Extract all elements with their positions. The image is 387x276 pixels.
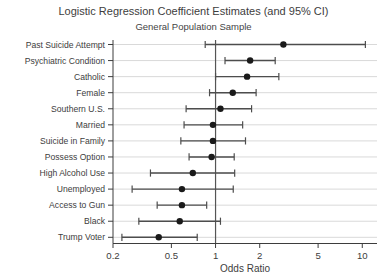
- estimate-point: [210, 138, 216, 144]
- forest-plot-canvas: Past Suicide AttemptPsychiatric Conditio…: [0, 0, 387, 276]
- estimate-point: [210, 122, 216, 128]
- estimate-point: [156, 234, 162, 240]
- y-axis-label: Unemployed: [57, 184, 105, 194]
- estimate-point: [177, 218, 183, 224]
- estimate-point: [247, 57, 253, 63]
- x-axis-tick-label: 5: [315, 250, 320, 261]
- x-axis-tick-label: 0.2: [106, 250, 119, 261]
- y-axis-label: High Alcohol Use: [40, 168, 106, 178]
- y-axis-label: Suicide in Family: [40, 136, 106, 146]
- chart-title: Logistic Regression Coefficient Estimate…: [0, 5, 387, 18]
- y-axis-label: Psychiatric Condition: [25, 56, 105, 66]
- x-axis-tick-label: 1: [213, 250, 218, 261]
- x-axis-tick-label: 0.5: [165, 250, 178, 261]
- estimate-point: [190, 170, 196, 176]
- y-axis-label: Catholic: [74, 72, 106, 82]
- estimate-point: [179, 202, 185, 208]
- y-axis-label: Possess Option: [45, 152, 105, 162]
- x-axis-tick-label: 10: [357, 250, 368, 261]
- estimate-point: [280, 41, 286, 47]
- estimate-point: [230, 90, 236, 96]
- y-axis-label: Southern U.S.: [51, 104, 105, 114]
- y-axis-label: Access to Gun: [49, 200, 105, 210]
- y-axis-label: Black: [84, 216, 106, 226]
- forest-plot-figure: Past Suicide AttemptPsychiatric Conditio…: [0, 0, 387, 276]
- x-axis-tick-label: 2: [257, 250, 262, 261]
- chart-subtitle: General Population Sample: [0, 21, 387, 33]
- y-axis-label: Female: [76, 88, 105, 98]
- y-axis-label: Past Suicide Attempt: [26, 40, 106, 50]
- estimate-point: [244, 73, 250, 79]
- estimate-point: [217, 106, 223, 112]
- y-axis-label: Trump Voter: [58, 232, 105, 242]
- estimate-point: [208, 154, 214, 160]
- y-axis-label: Married: [76, 120, 105, 130]
- x-axis-title: Odds Ratio: [220, 263, 270, 274]
- estimate-point: [179, 186, 185, 192]
